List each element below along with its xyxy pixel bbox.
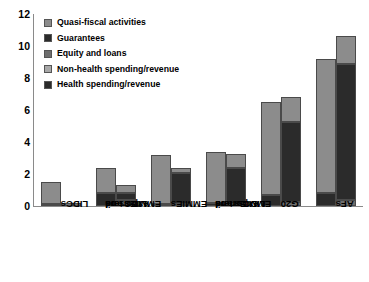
y-axis-tick: 6 — [4, 105, 30, 115]
bar-group — [308, 14, 363, 206]
stacked-bar — [281, 97, 301, 206]
bar-segment — [151, 155, 171, 204]
legend-item: Guarantees — [44, 31, 204, 47]
bar-segment — [226, 154, 246, 168]
stacked-bar — [316, 59, 336, 206]
legend-swatch-icon — [44, 81, 52, 89]
bar-group — [198, 14, 253, 206]
y-axis-tick: 12 — [4, 9, 30, 19]
legend-swatch-icon — [44, 50, 52, 58]
stacked-bar — [41, 182, 61, 206]
legend-label: Quasi-fiscal activities — [57, 18, 146, 27]
bar-segment — [316, 193, 336, 206]
x-axis-label-5: G20 — [253, 209, 308, 282]
x-axis-label-6: AFs — [308, 209, 363, 282]
bar-segment — [41, 204, 61, 206]
bar-segment — [96, 168, 116, 194]
x-axis-category-labels: LIDCsEMMIEs andLIDCs oilexportersEMMIEsE… — [34, 209, 363, 282]
x-axis-label-1: LIDCs — [34, 209, 89, 282]
legend-label: Non-health spending/revenue — [57, 65, 179, 74]
bar-segment — [206, 152, 226, 202]
legend-swatch-icon — [44, 19, 52, 27]
legend-item: Quasi-fiscal activities — [44, 15, 204, 31]
stacked-bar — [336, 36, 356, 206]
legend-item: Health spending/revenue — [44, 77, 204, 93]
x-axis-label-4: EMMIEs andLIDCs n-oilexporters — [198, 209, 253, 282]
bar-segment — [281, 97, 301, 122]
legend-label: Guarantees — [57, 34, 105, 43]
bar-chart: 121086420 LIDCsEMMIEs andLIDCs oilexport… — [0, 0, 369, 282]
y-axis-tick: 10 — [4, 41, 30, 51]
legend-item: Non-health spending/revenue — [44, 62, 204, 78]
legend-swatch-icon — [44, 34, 52, 42]
legend-swatch-icon — [44, 65, 52, 73]
bar-segment — [336, 36, 356, 64]
bar-segment — [316, 59, 336, 193]
bar-segment — [261, 102, 281, 195]
x-axis-label-3: EMMIEs — [144, 209, 199, 282]
legend-item: Equity and loans — [44, 46, 204, 62]
y-axis-tick: 2 — [4, 169, 30, 179]
bar-segment — [336, 64, 356, 200]
bar-segment — [116, 185, 136, 193]
x-axis-label-2: EMMIEs andLIDCs oilexporters — [89, 209, 144, 282]
y-axis-tick: 4 — [4, 137, 30, 147]
legend-label: Health spending/revenue — [57, 80, 160, 89]
y-axis-tick: 0 — [4, 201, 30, 211]
legend-label: Equity and loans — [57, 49, 127, 58]
y-axis-tick: 8 — [4, 73, 30, 83]
stacked-bar — [261, 102, 281, 206]
chart-legend: Quasi-fiscal activitiesGuaranteesEquity … — [44, 15, 204, 93]
bar-segment — [281, 122, 301, 202]
bar-segment — [41, 182, 61, 204]
bar-group — [253, 14, 308, 206]
